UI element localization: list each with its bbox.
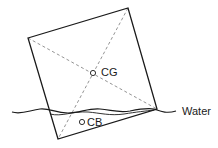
- cb-label: CB: [87, 117, 102, 128]
- cg-marker-icon: [90, 70, 95, 75]
- cg-label: CG: [101, 67, 118, 78]
- water-label: Water: [182, 106, 211, 117]
- cb-marker-icon: [79, 119, 84, 124]
- diagram-canvas: CG CB Water: [0, 0, 218, 148]
